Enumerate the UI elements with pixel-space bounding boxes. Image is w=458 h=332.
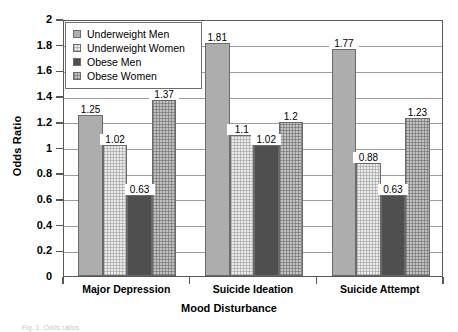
bar-value-label: 1.23 <box>402 107 432 118</box>
y-tick-label: 1.6 <box>18 64 52 76</box>
bar-value-label: 1.77 <box>329 38 359 49</box>
bar <box>205 43 230 276</box>
legend-item: Obese Men <box>73 55 195 69</box>
category-label: Suicide Ideation <box>183 283 323 295</box>
y-tick-mark <box>56 71 63 73</box>
legend-item: Underweight Men <box>73 27 195 41</box>
bar-value-label: 0.63 <box>125 184 155 195</box>
bar-value-label: 1.02 <box>100 134 130 145</box>
bar-value-label: 1.81 <box>202 32 232 43</box>
y-tick-label: 0.8 <box>18 167 52 179</box>
y-tick-label: 2 <box>18 13 52 25</box>
y-tick-mark <box>56 225 63 227</box>
legend-swatch-icon <box>73 58 81 66</box>
bar <box>152 100 177 276</box>
y-tick-mark <box>56 96 63 98</box>
bar <box>127 195 152 276</box>
y-tick-label: 1.4 <box>18 90 52 102</box>
y-tick-mark <box>56 148 63 150</box>
bar <box>254 145 279 276</box>
bar <box>405 118 430 276</box>
bar-chart-figure: Odds Ratio 00.20.40.60.811.21.41.61.82 U… <box>0 0 458 332</box>
y-tick-label: 0.4 <box>18 219 52 231</box>
y-tick-label: 0 <box>18 270 52 282</box>
legend-label: Obese Women <box>87 70 157 82</box>
bar <box>103 145 128 276</box>
legend-item: Obese Women <box>73 69 195 83</box>
bar-value-label: 1.25 <box>76 104 106 115</box>
x-axis-label: Mood Disturbance <box>0 302 458 314</box>
bar <box>230 135 255 276</box>
legend-swatch-icon <box>73 44 81 52</box>
bar-value-label: 0.63 <box>378 184 408 195</box>
y-tick-label: 1 <box>18 142 52 154</box>
bar <box>279 122 304 276</box>
bar-value-label: 1.02 <box>251 134 281 145</box>
legend-item: Underweight Women <box>73 41 195 55</box>
y-tick-mark <box>56 199 63 201</box>
category-label: Major Depression <box>56 283 196 295</box>
bar-value-label: 1.2 <box>276 111 306 122</box>
legend-label: Underweight Men <box>87 28 169 40</box>
legend-label: Obese Men <box>87 56 141 68</box>
y-tick-mark <box>56 122 63 124</box>
bar <box>381 195 406 276</box>
y-tick-mark <box>56 173 63 175</box>
y-tick-label: 0.2 <box>18 244 52 256</box>
gridline <box>64 98 442 99</box>
y-tick-label: 1.2 <box>18 116 52 128</box>
y-tick-label: 0.6 <box>18 193 52 205</box>
y-tick-mark <box>56 45 63 47</box>
y-tick-mark <box>56 251 63 253</box>
bar <box>356 163 381 276</box>
y-tick-label: 1.8 <box>18 39 52 51</box>
bar-value-label: 1.37 <box>149 89 179 100</box>
plot-area: Underweight MenUnderweight WomenObese Me… <box>63 20 443 277</box>
category-label: Suicide Attempt <box>310 283 450 295</box>
legend-swatch-icon <box>73 72 81 80</box>
legend-swatch-icon <box>73 30 81 38</box>
figure-caption: Fig. 1. Odds ratios <box>22 324 79 331</box>
chart-legend: Underweight MenUnderweight WomenObese Me… <box>65 22 202 89</box>
bar-value-label: 0.88 <box>353 152 383 163</box>
y-tick-mark <box>56 19 63 21</box>
legend-label: Underweight Women <box>87 42 185 54</box>
